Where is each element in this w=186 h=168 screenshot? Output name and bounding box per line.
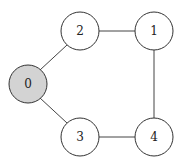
node-label: 1	[150, 24, 158, 38]
graph-diagram: 0 1 2 3 4	[0, 0, 186, 168]
node-label: 0	[24, 77, 32, 91]
node-3: 3	[61, 118, 99, 156]
edge-0-3	[40, 98, 67, 123]
node-label: 3	[76, 130, 84, 144]
node-0: 0	[9, 65, 47, 103]
edges	[40, 31, 154, 137]
edge-0-2	[40, 45, 67, 70]
node-1: 1	[135, 12, 173, 50]
node-4: 4	[135, 118, 173, 156]
node-2: 2	[61, 12, 99, 50]
node-label: 4	[150, 130, 158, 144]
node-label: 2	[76, 24, 84, 38]
